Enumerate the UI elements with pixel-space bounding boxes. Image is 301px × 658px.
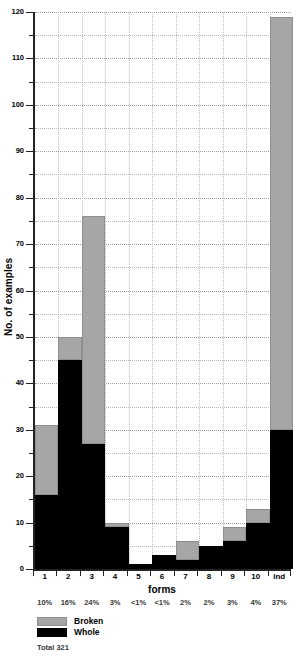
percentage-label-4: 3% bbox=[103, 598, 126, 608]
percentage-label-8: 2% bbox=[197, 598, 220, 608]
y-tick-major bbox=[26, 151, 33, 152]
legend-label-whole: Whole bbox=[74, 627, 100, 638]
legend-item-whole: Whole bbox=[37, 627, 197, 638]
bar-segment-broken bbox=[35, 425, 58, 495]
bar-segment-whole bbox=[270, 430, 293, 569]
y-tick-label: 40 bbox=[0, 379, 24, 387]
x-tick-label-ind: ind bbox=[268, 572, 291, 582]
bar-segment-broken bbox=[270, 17, 293, 430]
y-tick-label: 70 bbox=[0, 240, 24, 248]
x-axis-tick-labels: 12345678910ind bbox=[33, 572, 291, 584]
legend-item-broken: Broken bbox=[37, 616, 197, 627]
percentage-label-10: 4% bbox=[244, 598, 267, 608]
total-annotation: Total 321 bbox=[37, 643, 69, 652]
bar-10 bbox=[246, 509, 269, 569]
y-tick-minor bbox=[29, 128, 33, 129]
x-tick-label-8: 8 bbox=[197, 572, 220, 582]
y-tick-minor bbox=[29, 407, 33, 408]
bar-segment-broken bbox=[223, 527, 246, 541]
y-tick-minor bbox=[29, 267, 33, 268]
y-tick-label: 10 bbox=[0, 519, 24, 527]
y-tick-label: 90 bbox=[0, 147, 24, 155]
legend-label-broken: Broken bbox=[74, 616, 103, 627]
y-tick-minor bbox=[29, 221, 33, 222]
y-tick-label: 120 bbox=[0, 8, 24, 16]
y-tick-major bbox=[26, 58, 33, 59]
bar-segment-whole bbox=[152, 555, 175, 569]
x-tick-label-10: 10 bbox=[244, 572, 267, 582]
y-tick-label: 30 bbox=[0, 426, 24, 434]
percentage-labels-row: 10%16%24%3%<1%<1%2%2%3%4%37% bbox=[33, 598, 291, 610]
x-tick-label-9: 9 bbox=[221, 572, 244, 582]
percentage-label-2: 16% bbox=[56, 598, 79, 608]
percentage-label-3: 24% bbox=[80, 598, 103, 608]
percentage-label-7: 2% bbox=[174, 598, 197, 608]
x-axis-line bbox=[33, 569, 291, 571]
x-tick-label-7: 7 bbox=[174, 572, 197, 582]
percentage-label-5: <1% bbox=[127, 598, 150, 608]
bar-9 bbox=[223, 527, 246, 569]
y-tick-minor bbox=[29, 314, 33, 315]
y-tick-major bbox=[26, 383, 33, 384]
bar-segment-whole bbox=[223, 541, 246, 569]
y-tick-label: 0 bbox=[0, 565, 24, 573]
bar-segment-whole bbox=[176, 560, 199, 569]
x-tick-label-6: 6 bbox=[150, 572, 173, 582]
y-tick-label: 110 bbox=[0, 54, 24, 62]
legend-swatch-broken-icon bbox=[37, 617, 67, 626]
bar-segment-broken bbox=[176, 541, 199, 560]
y-tick-major bbox=[26, 476, 33, 477]
percentage-label-ind: 37% bbox=[268, 598, 291, 608]
bar-segment-whole bbox=[246, 523, 269, 569]
y-tick-major bbox=[26, 244, 33, 245]
x-axis-title: forms bbox=[33, 584, 291, 595]
y-tick-major bbox=[26, 12, 33, 13]
bar-segment-whole bbox=[58, 360, 81, 569]
y-tick-minor bbox=[29, 546, 33, 547]
y-tick-minor bbox=[29, 499, 33, 500]
bar-6 bbox=[152, 555, 175, 569]
bar-segment-whole bbox=[105, 527, 128, 569]
bar-segment-whole bbox=[199, 546, 222, 569]
percentage-label-1: 10% bbox=[33, 598, 56, 608]
x-tick-label-5: 5 bbox=[127, 572, 150, 582]
y-tick-minor bbox=[29, 360, 33, 361]
y-tick-major bbox=[26, 198, 33, 199]
plot-area bbox=[33, 12, 291, 569]
y-tick-major bbox=[26, 430, 33, 431]
bar-4 bbox=[105, 523, 128, 569]
bar-segment-broken bbox=[58, 337, 81, 360]
y-tick-minor bbox=[29, 82, 33, 83]
bar-segment-whole bbox=[82, 444, 105, 569]
y-tick-major bbox=[26, 523, 33, 524]
bar-chart-figure: No. of examples 010203040506070809010011… bbox=[0, 0, 301, 658]
y-tick-minor bbox=[29, 453, 33, 454]
y-tick-label: 20 bbox=[0, 472, 24, 480]
chart-legend: Broken Whole bbox=[37, 616, 197, 638]
y-tick-minor bbox=[29, 174, 33, 175]
bar-3 bbox=[82, 216, 105, 569]
x-tick-label-1: 1 bbox=[33, 572, 56, 582]
bar-2 bbox=[58, 337, 81, 569]
bar-segment-broken bbox=[246, 509, 269, 523]
y-tick-label: 80 bbox=[0, 194, 24, 202]
bar-segment-whole bbox=[35, 495, 58, 569]
y-tick-major bbox=[26, 337, 33, 338]
y-tick-minor bbox=[29, 35, 33, 36]
bar-7 bbox=[176, 541, 199, 569]
x-tick-label-2: 2 bbox=[56, 572, 79, 582]
x-tick-label-3: 3 bbox=[80, 572, 103, 582]
bar-series-layer bbox=[35, 12, 291, 569]
y-tick-major bbox=[26, 569, 33, 570]
bar-ind bbox=[270, 17, 293, 569]
y-tick-label: 50 bbox=[0, 333, 24, 341]
legend-swatch-whole-icon bbox=[37, 628, 67, 637]
y-tick-label: 60 bbox=[0, 287, 24, 295]
bar-8 bbox=[199, 546, 222, 569]
x-tick-label-4: 4 bbox=[103, 572, 126, 582]
y-tick-label: 100 bbox=[0, 101, 24, 109]
y-axis-title: No. of examples bbox=[2, 232, 16, 362]
bar-segment-broken bbox=[82, 216, 105, 443]
percentage-label-9: 3% bbox=[221, 598, 244, 608]
percentage-label-6: <1% bbox=[150, 598, 173, 608]
